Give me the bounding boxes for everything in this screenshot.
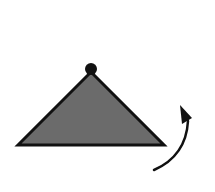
diagram-svg — [0, 0, 215, 192]
triangle-shape — [18, 72, 164, 145]
apex-pivot-dot — [85, 63, 97, 75]
diagram-canvas — [0, 0, 215, 192]
rotation-arrow-head-icon — [180, 105, 192, 124]
